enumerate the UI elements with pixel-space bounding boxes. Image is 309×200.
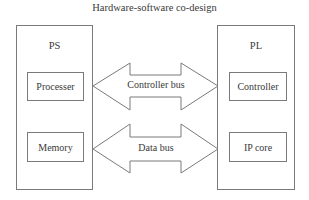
- controller-bus-label: Controller bus: [118, 79, 194, 90]
- data-bus-label: Data bus: [118, 142, 194, 153]
- bus-arrows: [0, 0, 309, 200]
